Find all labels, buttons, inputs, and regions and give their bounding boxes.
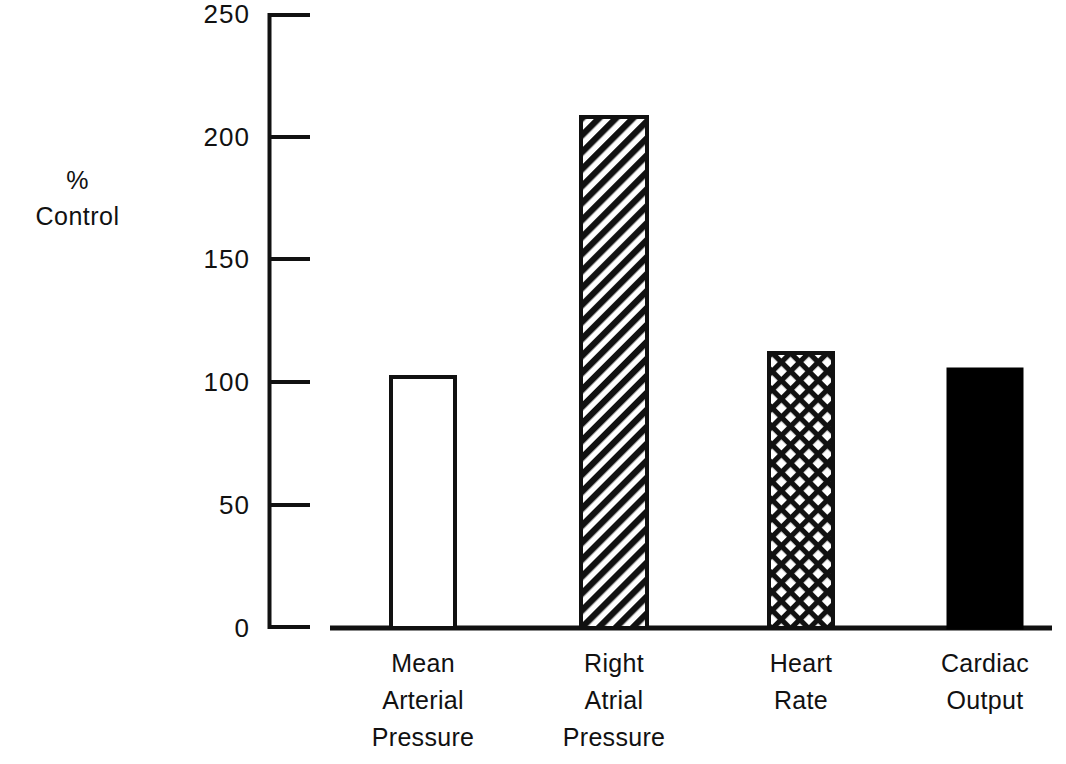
- category-label-cardiac-output: Cardiac Output: [895, 645, 1066, 719]
- category-label-line: Pressure: [524, 719, 704, 756]
- category-label-heart-rate: Heart Rate: [711, 645, 891, 719]
- category-label-line: Heart: [711, 645, 891, 682]
- category-label-right-atrial-pressure: Right Atrial Pressure: [524, 645, 704, 756]
- category-label-line: Output: [895, 682, 1066, 719]
- bar-chart: % Control 250 200 150 100 50 0: [0, 0, 1066, 764]
- category-label-line: Rate: [711, 682, 891, 719]
- category-label-line: Atrial: [524, 682, 704, 719]
- x-axis-category-labels: Mean Arterial Pressure Right Atrial Pres…: [0, 0, 1066, 764]
- category-label-line: Right: [524, 645, 704, 682]
- category-label-line: Cardiac: [895, 645, 1066, 682]
- category-label-line: Arterial: [333, 682, 513, 719]
- category-label-line: Pressure: [333, 719, 513, 756]
- category-label-mean-arterial-pressure: Mean Arterial Pressure: [333, 645, 513, 756]
- category-label-line: Mean: [333, 645, 513, 682]
